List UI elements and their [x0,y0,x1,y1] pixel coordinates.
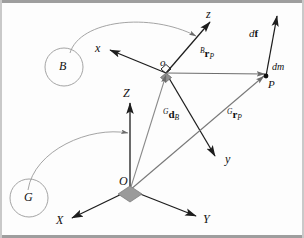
figure-right-border [302,0,304,238]
diagram-canvas [0,0,304,238]
body-frame-callout-arc [70,22,196,53]
point-P-label: P [268,79,275,90]
body-x-axis-label: x [95,42,100,54]
figure-bottom-border [0,235,304,238]
body-position-vector-sub: P [209,52,214,61]
global-Y-axis-label: Y [203,213,210,225]
mass-element-label: dm [272,62,284,72]
global-body-offset-vector-label: GdB [163,108,179,122]
body-position-vector-label: BrP [200,47,214,61]
body-origin-label: o [160,57,166,68]
body-x-axis [110,50,166,73]
global-origin-marker [118,186,142,202]
body-frame-badge-label: B [59,60,66,72]
figure-left-border [0,0,2,238]
body-z-axis-label: z [206,8,211,20]
global-position-vector-line [130,76,264,190]
global-Z-axis-label: Z [123,87,130,99]
force-label-f: f [255,27,259,39]
global-frame-badge-label: G [24,191,33,203]
force-label-df: df [249,28,258,39]
vector-diagram-figure: B G z x y o Z X Y O P dm df BrP GrP GdB [0,0,304,238]
figure-top-border [0,0,304,3]
global-frame-callout-arc [28,132,128,190]
global-body-offset-vector-line [130,75,166,190]
global-position-vector-label: GrP [227,108,242,122]
global-position-vector-sub: P [237,113,242,122]
body-position-vector-line [166,73,265,74]
body-y-axis-label: y [225,153,230,165]
global-origin-label: O [119,175,128,187]
global-body-offset-vector-sub: B [175,113,180,122]
global-X-axis-label: X [56,214,63,226]
